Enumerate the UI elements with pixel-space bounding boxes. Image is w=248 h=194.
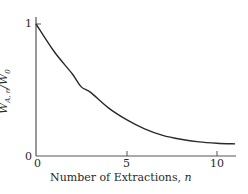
y-tick-label-0: 0 [25, 150, 32, 163]
y-axis-label: WA, n/W0 [0, 69, 12, 114]
x-axis-label: Number of Extractions, n [50, 171, 192, 184]
y-label-den: /W [0, 74, 10, 89]
decay-curve [36, 24, 235, 144]
y-label-sub: A, n [4, 89, 12, 103]
y-label-w: W [0, 103, 10, 114]
x-tick-label-10: 10 [210, 157, 224, 170]
x-label-text: Number of Extractions, [50, 171, 185, 184]
x-label-var: n [185, 171, 192, 184]
x-tick-label-5: 5 [123, 157, 130, 170]
y-tick-label-1: 1 [25, 17, 32, 30]
x-tick-label-0: 0 [34, 157, 41, 170]
y-label-den-sub: 0 [4, 69, 12, 73]
